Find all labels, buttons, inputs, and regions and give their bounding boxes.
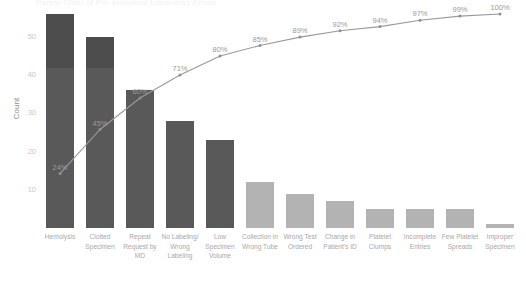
cumulative-line: [40, 14, 520, 228]
y-axis-tick-label: 30: [14, 110, 36, 118]
x-axis-label-10: Few Platelet Spreads: [440, 232, 480, 251]
cumulative-percent-label-5: 85%: [252, 35, 267, 43]
y-axis-tick-label: 50: [14, 33, 36, 41]
x-axis-label-4: Low Specimen Volume: [200, 232, 240, 261]
y-axis-tick-label: 10: [14, 186, 36, 194]
cumulative-percent-label-8: 94%: [372, 16, 387, 24]
line-marker-1: [99, 128, 102, 131]
x-axis-label-6: Wrong Test Ordered: [280, 232, 320, 251]
pareto-chart: Pareto Chart of Pre-Analytical Laborator…: [0, 0, 526, 301]
line-marker-11: [499, 13, 502, 16]
cumulative-percent-label-7: 92%: [332, 20, 347, 28]
line-marker-7: [339, 29, 342, 32]
cumulative-percent-label-6: 89%: [292, 27, 307, 35]
x-axis-label-5: Collection in Wrong Tube: [240, 232, 280, 251]
x-axis-label-1: Clotted Specimen: [80, 232, 120, 251]
x-axis-label-3: No Labeling/ Wrong Labeling: [160, 232, 200, 261]
line-marker-5: [259, 44, 262, 47]
cumulative-percent-label-0: 24%: [52, 163, 67, 171]
y-axis-tick-label: 20: [14, 148, 36, 156]
cumulative-percent-label-1: 45%: [92, 119, 107, 127]
cumulative-percent-label-11: 100%: [490, 4, 509, 12]
line-marker-6: [299, 36, 302, 39]
y-axis-tick-label: 40: [14, 71, 36, 79]
line-marker-3: [179, 73, 182, 76]
y-axis-title: Count: [12, 79, 21, 139]
cumulative-percent-label-4: 80%: [212, 46, 227, 54]
line-marker-4: [219, 55, 222, 58]
x-axis-label-7: Change in Patient's ID: [320, 232, 360, 251]
line-marker-2: [139, 97, 142, 100]
plot-area: 102030405024%45%60%71%80%85%89%92%94%97%…: [40, 14, 520, 228]
cumulative-percent-label-2: 60%: [132, 88, 147, 96]
x-axis-label-2: Repeat Request by MD: [120, 232, 160, 261]
line-marker-9: [419, 19, 422, 22]
line-marker-0: [59, 172, 62, 175]
x-axis-label-11: Improper Specimen: [480, 232, 520, 251]
cumulative-percent-label-3: 71%: [172, 64, 187, 72]
x-axis-label-0: Hemolysis: [40, 232, 80, 242]
cumulative-percent-label-10: 99%: [452, 6, 467, 14]
line-marker-8: [379, 25, 382, 28]
x-axis-label-8: Platelet Clumps: [360, 232, 400, 251]
x-axis-label-9: Incomplete Entries: [400, 232, 440, 251]
line-marker-10: [459, 15, 462, 18]
cumulative-percent-label-9: 97%: [412, 10, 427, 18]
x-axis-labels: HemolysisClotted SpecimenRepeat Request …: [40, 232, 520, 298]
